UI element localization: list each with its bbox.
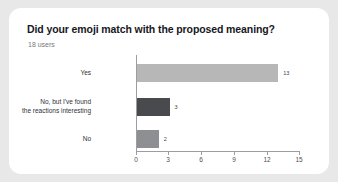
bar-segment bbox=[137, 98, 170, 116]
chart-card: Did your emoji match with the proposed m… bbox=[9, 8, 329, 174]
bar-value-label: 2 bbox=[164, 136, 167, 142]
x-tick-label-5: 15 bbox=[295, 156, 302, 163]
bar-segment bbox=[137, 130, 159, 148]
x-tick-0 bbox=[136, 152, 137, 155]
x-tick-label-3: 9 bbox=[232, 156, 236, 163]
x-tick-label-4: 12 bbox=[263, 156, 270, 163]
x-tick-label-1: 3 bbox=[166, 156, 170, 163]
x-tick-1 bbox=[168, 152, 169, 155]
category-label: No, but I've found the reactions interes… bbox=[22, 98, 91, 115]
bar-value-label: 3 bbox=[175, 104, 178, 110]
x-tick-4 bbox=[267, 152, 268, 155]
x-tick-2 bbox=[201, 152, 202, 155]
x-tick-3 bbox=[234, 152, 235, 155]
bar-value-label: 13 bbox=[283, 70, 289, 76]
x-tick-5 bbox=[299, 152, 300, 155]
bar-chart-plot: 0 3 6 9 12 15 Yes 13 No, but I've found … bbox=[9, 8, 329, 174]
bar-segment bbox=[137, 64, 278, 82]
x-axis-line bbox=[136, 151, 300, 152]
x-tick-label-2: 6 bbox=[199, 156, 203, 163]
category-label: No bbox=[83, 135, 91, 144]
category-label: Yes bbox=[80, 69, 91, 78]
x-tick-label-0: 0 bbox=[134, 156, 138, 163]
